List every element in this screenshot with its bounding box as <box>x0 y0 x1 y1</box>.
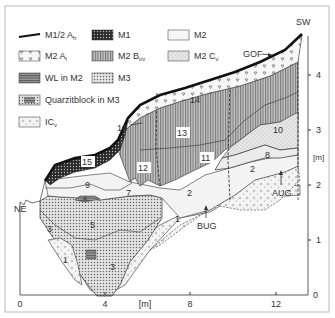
legend-label-quarz: Quarzitblock in M3 <box>45 95 120 105</box>
legend-swatch-m12ah <box>19 34 40 37</box>
orientation-ne: NE <box>14 204 27 214</box>
x-unit-label: [m] <box>139 299 152 309</box>
unit-label-2: 2 <box>187 188 192 198</box>
geological-cross-section: 0 4 [m] 8 12 4 3 [m] 2 1 0 NE SW GOF AUG… <box>0 0 335 318</box>
y-tick-1: 1 <box>316 235 321 245</box>
legend-label-m3: M3 <box>118 73 131 83</box>
legend-swatch-wl <box>19 73 40 83</box>
legend-label-m2al: M2 Al <box>45 51 67 62</box>
unit-label-7: 7 <box>126 188 131 198</box>
unit-label-8: 8 <box>265 150 270 160</box>
orientation-sw: SW <box>296 17 311 27</box>
unit-label-10: 10 <box>273 125 283 135</box>
legend-swatch-m2cv <box>168 51 189 61</box>
unit-label-9: 9 <box>85 180 90 190</box>
unit-label-1: 1 <box>63 255 68 265</box>
x-tick-4: 4 <box>102 299 107 309</box>
legend-swatch-m2al <box>19 51 40 61</box>
legend-label-m2bt: M2 Bt/v <box>118 51 145 62</box>
quarzit-block <box>86 250 96 259</box>
unit-label-3b: 3 <box>110 262 115 272</box>
unit-label-12: 12 <box>138 163 148 173</box>
y-tick-2: 2 <box>316 180 321 190</box>
gof-label: GOF <box>243 49 263 59</box>
unit-label-14: 14 <box>190 95 200 105</box>
y-tick-3: 3 <box>316 125 321 135</box>
aug-label: AUG <box>272 188 292 198</box>
unit-label-4: 4 <box>83 195 87 202</box>
y-tick-4: 4 <box>316 70 321 80</box>
y-unit-label: [m] <box>313 153 324 162</box>
legend-label-m2: M2 <box>194 30 207 40</box>
unit-label-2b: 2 <box>250 164 255 174</box>
unit-label-1b: 1 <box>175 214 180 224</box>
unit-label-16: 16 <box>117 123 127 133</box>
bug-label: BUG <box>197 221 217 231</box>
legend-swatch-m2bt <box>92 51 113 61</box>
legend-label-m1: M1 <box>118 30 131 40</box>
legend-label-wl: WL in M2 <box>45 73 83 83</box>
unit-label-11: 11 <box>201 153 210 163</box>
legend-swatch-m2 <box>168 30 189 40</box>
unit-label-5: 5 <box>90 220 95 230</box>
y-tick-0: 0 <box>313 290 318 300</box>
legend-label-m12ah: M1/2 Ah <box>45 30 76 41</box>
x-tick-0: 0 <box>17 299 22 309</box>
legend-label-icv: ICv <box>45 117 57 128</box>
legend-label-m2cv: M2 Cv <box>194 51 219 62</box>
unit-label-13: 13 <box>177 128 187 138</box>
legend-swatch-m1 <box>92 30 113 40</box>
x-tick-12: 12 <box>271 299 281 309</box>
unit-label-15: 15 <box>82 157 92 167</box>
unit-label-3: 3 <box>47 224 52 234</box>
legend-swatch-m3 <box>92 73 113 83</box>
x-tick-8: 8 <box>187 299 192 309</box>
legend-swatch-icv <box>19 117 40 127</box>
